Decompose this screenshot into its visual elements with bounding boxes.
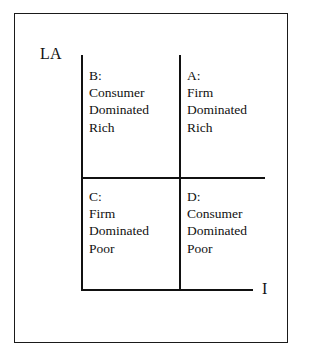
quadrant-d-line-2: Consumer: [187, 205, 247, 222]
quadrant-a-line-4: Rich: [187, 119, 247, 136]
quadrant-b-line-4: Rich: [89, 119, 149, 136]
quadrant-c-line-3: Dominated: [89, 222, 149, 239]
quadrant-a-line-1: A:: [187, 67, 247, 84]
quadrant-a-label: A: Firm Dominated Rich: [187, 67, 247, 136]
quadrant-c-line-1: C:: [89, 188, 149, 205]
x-axis-label: I: [262, 281, 268, 297]
y-axis-line: [81, 55, 83, 291]
quadrant-a-line-3: Dominated: [187, 101, 247, 118]
quadrant-c-label: C: Firm Dominated Poor: [89, 188, 149, 257]
quadrant-c-line-4: Poor: [89, 240, 149, 257]
quadrant-b-label: B: Consumer Dominated Rich: [89, 67, 149, 136]
quadrant-d-line-3: Dominated: [187, 222, 247, 239]
quadrant-a-line-2: Firm: [187, 84, 247, 101]
quadrant-divider-horizontal: [81, 177, 265, 179]
quadrant-b-line-1: B:: [89, 67, 149, 84]
diagram-canvas: LA I B: Consumer Dominated Rich A: Firm …: [0, 0, 309, 359]
y-axis-label: LA: [40, 46, 62, 62]
quadrant-d-line-4: Poor: [187, 240, 247, 257]
quadrant-c-line-2: Firm: [89, 205, 149, 222]
quadrant-d-label: D: Consumer Dominated Poor: [187, 188, 247, 257]
quadrant-b-line-3: Dominated: [89, 101, 149, 118]
quadrant-b-line-2: Consumer: [89, 84, 149, 101]
x-axis-line: [81, 289, 253, 291]
quadrant-divider-vertical: [179, 55, 181, 291]
quadrant-d-line-1: D:: [187, 188, 247, 205]
